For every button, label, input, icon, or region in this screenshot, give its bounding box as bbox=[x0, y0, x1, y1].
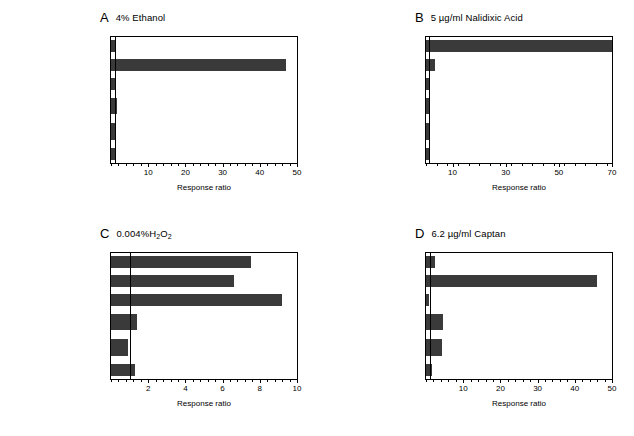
x-tick-label: 50 bbox=[608, 384, 617, 394]
x-tick-minor bbox=[486, 380, 487, 382]
x-tick-minor bbox=[543, 164, 544, 166]
bar-a-1 bbox=[111, 59, 286, 71]
x-tick-label: 10 bbox=[459, 384, 468, 394]
reference-line bbox=[430, 253, 431, 379]
x-tick-major bbox=[575, 380, 576, 383]
bar-c-5 bbox=[111, 364, 135, 376]
x-tick-minor bbox=[200, 164, 201, 166]
x-tick-minor bbox=[267, 164, 268, 166]
x-tick-minor bbox=[193, 164, 194, 166]
x-tick-label: 20 bbox=[181, 168, 190, 178]
x-tick-major bbox=[260, 380, 261, 383]
bar-d-4 bbox=[426, 339, 442, 355]
x-tick-major bbox=[463, 380, 464, 383]
x-tick-minor bbox=[215, 164, 216, 166]
x-tick-minor bbox=[448, 380, 449, 382]
x-tick-minor bbox=[118, 164, 119, 166]
x-tick-label: 30 bbox=[533, 384, 542, 394]
x-tick-minor bbox=[163, 164, 164, 166]
x-tick-minor bbox=[171, 380, 172, 382]
plot-area-a bbox=[110, 36, 298, 164]
x-tick-minor bbox=[554, 164, 555, 166]
panel-letter-d: D bbox=[415, 226, 424, 241]
panel-letter-c: C bbox=[100, 226, 109, 241]
x-tick-label: 4 bbox=[183, 384, 187, 394]
x-tick-minor bbox=[126, 164, 127, 166]
x-tick-label: 10 bbox=[448, 168, 457, 178]
bar-d-3 bbox=[426, 314, 443, 330]
x-tick-major bbox=[223, 380, 224, 383]
x-tick-minor bbox=[163, 380, 164, 382]
x-tick-major bbox=[260, 164, 261, 167]
x-tick-minor bbox=[437, 164, 438, 166]
x-tick-minor bbox=[133, 164, 134, 166]
x-axis-title-d: Response ratio bbox=[492, 399, 546, 409]
x-tick-minor bbox=[208, 164, 209, 166]
panel-title-b: B5 µg/ml Nalidixic Acid bbox=[415, 12, 523, 24]
x-tick-major bbox=[185, 164, 186, 167]
x-tick-label: 30 bbox=[501, 168, 510, 178]
x-tick-minor bbox=[178, 380, 179, 382]
x-tick-major bbox=[148, 380, 149, 383]
x-tick-minor bbox=[133, 380, 134, 382]
panel-title-d: D6.2 µg/ml Captan bbox=[415, 228, 506, 240]
bar-c-2 bbox=[111, 294, 282, 306]
x-tick-minor bbox=[171, 164, 172, 166]
x-tick-minor bbox=[141, 164, 142, 166]
x-tick-minor bbox=[605, 380, 606, 382]
x-tick-label: 2 bbox=[146, 384, 150, 394]
x-tick-minor bbox=[245, 380, 246, 382]
x-tick-minor bbox=[200, 380, 201, 382]
x-tick-minor bbox=[515, 380, 516, 382]
x-tick-minor bbox=[282, 164, 283, 166]
x-tick-minor bbox=[215, 380, 216, 382]
plot-area-c bbox=[110, 252, 298, 380]
x-tick-minor bbox=[522, 164, 523, 166]
panel-letter-a: A bbox=[100, 10, 109, 25]
x-tick-minor bbox=[575, 164, 576, 166]
x-tick-major bbox=[500, 380, 501, 383]
x-tick-minor bbox=[156, 380, 157, 382]
x-tick-minor bbox=[582, 380, 583, 382]
x-tick-minor bbox=[111, 380, 112, 382]
x-tick-major bbox=[612, 164, 613, 167]
x-tick-label: 40 bbox=[570, 384, 579, 394]
x-tick-minor bbox=[252, 380, 253, 382]
panel-letter-b: B bbox=[415, 10, 424, 25]
x-tick-label: 50 bbox=[293, 168, 302, 178]
x-tick-minor bbox=[230, 164, 231, 166]
x-tick-minor bbox=[479, 164, 480, 166]
x-tick-minor bbox=[426, 380, 427, 382]
x-tick-minor bbox=[607, 164, 608, 166]
x-tick-minor bbox=[275, 164, 276, 166]
x-axis-title-c: Response ratio bbox=[177, 399, 231, 409]
reference-line bbox=[130, 253, 131, 379]
x-tick-major bbox=[612, 380, 613, 383]
x-tick-minor bbox=[208, 380, 209, 382]
x-tick-minor bbox=[237, 164, 238, 166]
panel-title-c: C0.004%H2O2 bbox=[100, 228, 172, 243]
x-tick-minor bbox=[126, 380, 127, 382]
x-tick-minor bbox=[597, 380, 598, 382]
x-tick-minor bbox=[508, 380, 509, 382]
x-tick-minor bbox=[456, 380, 457, 382]
x-tick-minor bbox=[478, 380, 479, 382]
x-tick-minor bbox=[590, 380, 591, 382]
x-tick-minor bbox=[245, 164, 246, 166]
x-tick-minor bbox=[471, 380, 472, 382]
x-tick-minor bbox=[500, 164, 501, 166]
plot-area-d bbox=[425, 252, 613, 380]
x-tick-minor bbox=[111, 164, 112, 166]
x-tick-label: 10 bbox=[144, 168, 153, 178]
x-tick-minor bbox=[426, 164, 427, 166]
x-tick-minor bbox=[523, 380, 524, 382]
panel-title-a: A4% Ethanol bbox=[100, 12, 165, 24]
bar-b-1 bbox=[426, 59, 435, 71]
x-tick-label: 70 bbox=[608, 168, 617, 178]
x-tick-minor bbox=[230, 380, 231, 382]
x-tick-minor bbox=[532, 164, 533, 166]
reference-line bbox=[429, 37, 430, 163]
x-tick-major bbox=[453, 164, 454, 167]
x-tick-minor bbox=[433, 380, 434, 382]
x-tick-minor bbox=[493, 380, 494, 382]
